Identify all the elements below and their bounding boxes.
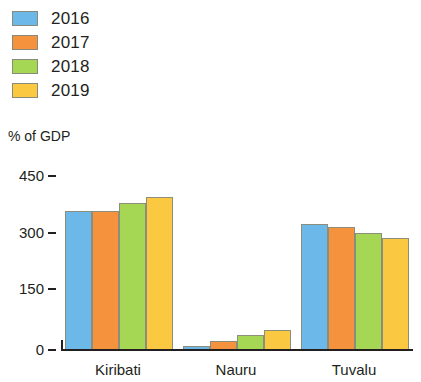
bar-kiribati-2016[interactable] (65, 211, 92, 349)
y-tick-label-450: 450 (0, 167, 44, 184)
bar-nauru-2017[interactable] (210, 341, 237, 349)
y-tick-mark-300 (48, 232, 56, 234)
bar-tuvalu-2019[interactable] (382, 238, 409, 349)
y-tick-mark-450 (48, 175, 56, 177)
x-category-label-tuvalu: Tuvalu (298, 361, 410, 378)
x-axis-line (61, 349, 413, 351)
bar-tuvalu-2018[interactable] (355, 233, 382, 349)
y-tick-label-0: 0 (0, 341, 44, 358)
y-tick-label-300: 300 (0, 224, 44, 241)
y-tick-mark-150 (48, 288, 56, 290)
bar-kiribati-2019[interactable] (146, 197, 173, 349)
y-tick-label-150: 150 (0, 280, 44, 297)
bar-tuvalu-2016[interactable] (301, 224, 328, 349)
bar-nauru-2018[interactable] (237, 335, 264, 349)
bar-chart-plot: 450 300 150 0 Kiribati Nauru Tuvalu (0, 0, 421, 382)
x-category-label-nauru: Nauru (180, 361, 292, 378)
bar-kiribati-2018[interactable] (119, 203, 146, 349)
bar-kiribati-2017[interactable] (92, 211, 119, 349)
bar-nauru-2016[interactable] (183, 346, 210, 349)
y-tick-mark-0 (48, 349, 56, 351)
bar-nauru-2019[interactable] (264, 330, 291, 349)
x-category-label-kiribati: Kiribati (62, 361, 174, 378)
bar-tuvalu-2017[interactable] (328, 227, 355, 349)
